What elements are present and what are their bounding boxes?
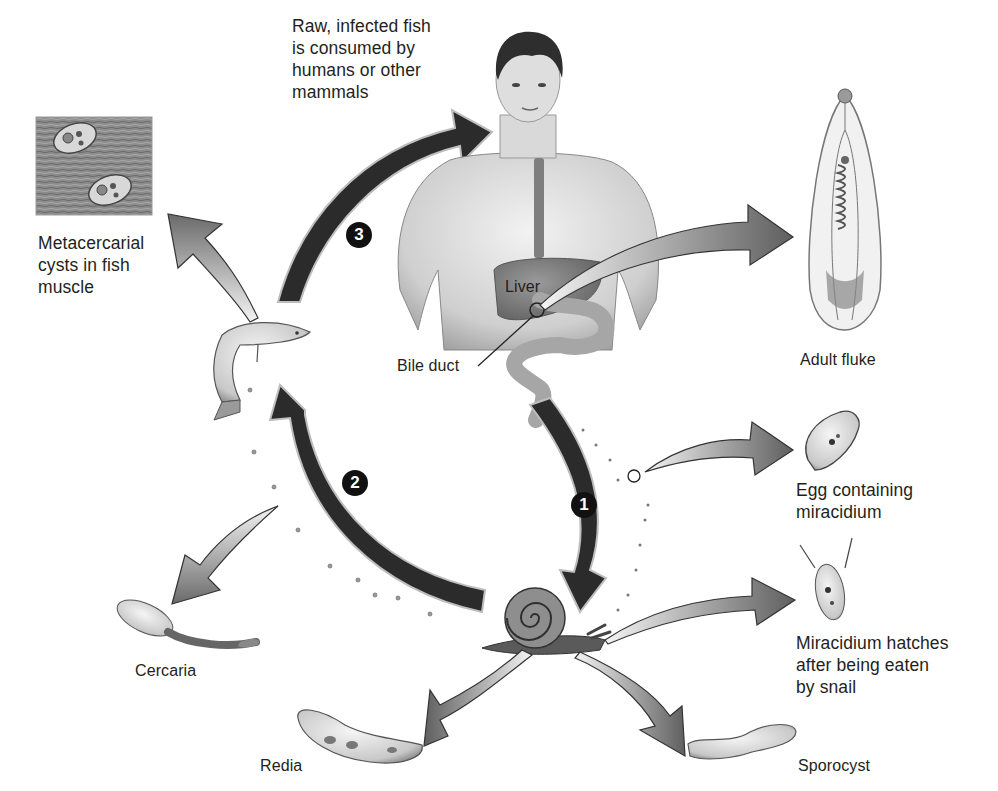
metacercarial-cysts-illustration [36,117,152,215]
liver-fluke-life-cycle-diagram: 3 2 1 Raw, infected fish is consumed by … [0,0,998,791]
step-2-badge: 2 [342,470,368,496]
miracidium-illustration [800,538,852,622]
label-sporocyst: Sporocyst [798,755,870,777]
arrow-to-miracidium [605,578,795,644]
arrow-to-egg [645,422,793,475]
step-2-number: 2 [350,473,359,493]
arrow-to-redia [424,650,532,746]
label-cercaria: Cercaria [135,660,196,682]
step-1-badge: 1 [571,492,597,518]
label-bile-duct: Bile duct [397,355,459,377]
label-egg-containing-miracidium: Egg containing miracidium [796,479,913,523]
step-3-number: 3 [354,225,363,245]
arrow-step-2 [270,385,485,612]
arrow-fish-to-cysts [168,214,258,322]
step-1-number: 1 [579,495,588,515]
label-adult-fluke: Adult fluke [800,349,876,371]
arrow-to-sporocyst [575,652,685,756]
step-3-badge: 3 [346,222,372,248]
label-redia: Redia [260,755,302,777]
adult-fluke-illustration [809,89,881,330]
sporocyst-illustration [688,725,796,759]
egg-marker [628,470,640,482]
cercaria-illustration [112,593,259,648]
redia-illustration [298,710,422,763]
label-metacercarial-cysts: Metacercarial cysts in fish muscle [38,232,144,298]
label-raw-fish-consumed: Raw, infected fish is consumed by humans… [292,15,431,103]
egg-illustration [806,411,859,470]
label-liver: Liver [505,276,540,298]
label-miracidium-hatches: Miracidium hatches after being eaten by … [796,632,949,698]
arrow-to-cercaria [172,506,278,604]
